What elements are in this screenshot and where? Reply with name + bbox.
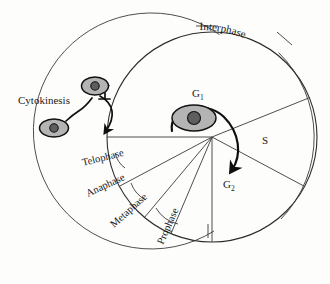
svg-text:1: 1 (200, 93, 204, 102)
cytokinesis-arrow (100, 96, 112, 131)
svg-text:G: G (223, 178, 231, 190)
label-anaphase: Anaphase (84, 171, 126, 199)
spoke-g1-s (212, 98, 309, 137)
label-interphase: Interphase (199, 20, 247, 40)
label-cytokinesis: Cytokinesis (18, 94, 70, 106)
spoke-prophase (171, 137, 212, 234)
label-telophase: Telophase (81, 147, 125, 168)
label-s: S (262, 134, 268, 146)
cell-cycle-figure: Interphase Cytokinesis G 1 G 2 S Telopha… (0, 0, 330, 284)
interphase-leader-right (277, 32, 292, 45)
spoke-anaphase (119, 137, 212, 186)
svg-text:G: G (192, 87, 200, 99)
spoke-metaphase (145, 137, 213, 217)
daughter-cell-upper (82, 77, 109, 95)
label-g2: G 2 (223, 178, 235, 193)
svg-text:2: 2 (231, 184, 235, 193)
interphase-arc-right (279, 53, 315, 220)
daughter-cell-lower (40, 119, 69, 137)
label-g1: G 1 (192, 87, 204, 102)
g1-cell (172, 105, 216, 131)
label-metaphase: Metaphase (108, 191, 149, 230)
